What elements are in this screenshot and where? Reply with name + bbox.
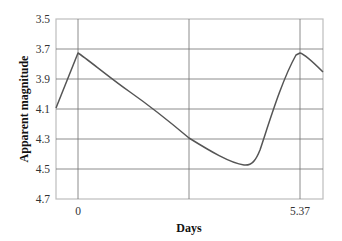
x-tick: 0 xyxy=(75,205,81,217)
y-axis-ticks: 3.5 3.7 3.9 4.1 4.3 4.5 4.7 xyxy=(36,13,51,205)
y-tick: 3.5 xyxy=(36,13,51,25)
x-tick: 5.37 xyxy=(290,205,310,217)
chart: 3.5 3.7 3.9 4.1 4.3 4.5 4.7 0 5.37 Days … xyxy=(0,0,342,241)
y-tick: 4.1 xyxy=(36,103,51,115)
y-tick: 3.9 xyxy=(36,73,51,85)
y-tick: 4.7 xyxy=(36,193,51,205)
y-tick: 4.3 xyxy=(36,133,51,145)
x-axis-ticks: 0 5.37 xyxy=(75,205,310,217)
y-tick: 4.5 xyxy=(36,163,51,175)
y-axis-label: Apparent magnitude xyxy=(17,55,31,162)
y-tick: 3.7 xyxy=(36,43,51,55)
x-axis-label: Days xyxy=(176,221,202,235)
